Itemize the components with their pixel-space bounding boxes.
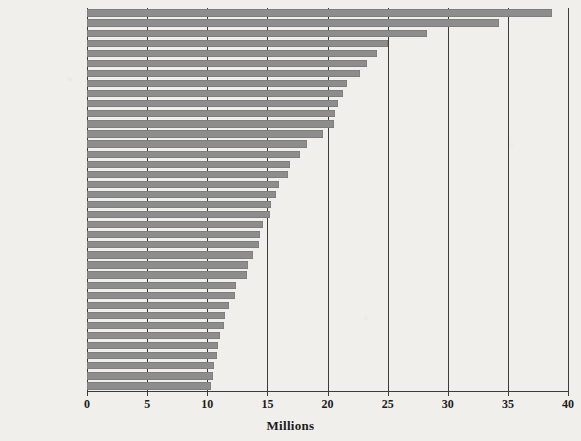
bar-row	[87, 30, 568, 37]
tick-label-15: 15	[261, 397, 273, 412]
bar-row	[87, 231, 568, 238]
tick-label-30: 30	[442, 397, 454, 412]
bar	[87, 60, 367, 67]
bar-row	[87, 251, 568, 258]
bar-row	[87, 191, 568, 198]
tick-label-0: 0	[84, 397, 90, 412]
bar	[87, 302, 229, 309]
bar-chart: 0510152025303540 Tokyo-YokohamaJakartaDe…	[0, 0, 581, 441]
bar	[87, 40, 388, 47]
tick-mark-35	[508, 391, 509, 396]
bar	[87, 332, 220, 339]
bar	[87, 130, 323, 137]
tick-label-20: 20	[322, 397, 334, 412]
tick-mark-10	[207, 391, 208, 396]
bar-row	[87, 221, 568, 228]
bar-row	[87, 282, 568, 289]
bar	[87, 50, 377, 57]
bar-row	[87, 9, 568, 16]
tick-label-40: 40	[562, 397, 574, 412]
tick-label-35: 35	[502, 397, 514, 412]
tick-mark-40	[568, 391, 569, 396]
bar-row	[87, 362, 568, 369]
tick-mark-25	[388, 391, 389, 396]
bar-row	[87, 80, 568, 87]
bar-row	[87, 171, 568, 178]
bar	[87, 201, 271, 208]
bar-row	[87, 140, 568, 147]
bar	[87, 211, 270, 218]
bar-row	[87, 332, 568, 339]
bar-row	[87, 120, 568, 127]
bar-row	[87, 50, 568, 57]
bar	[87, 140, 307, 147]
bar-row	[87, 161, 568, 168]
plot-area	[87, 8, 568, 391]
bar	[87, 171, 288, 178]
tick-label-5: 5	[144, 397, 150, 412]
bar	[87, 322, 224, 329]
bar	[87, 231, 260, 238]
bar-row	[87, 19, 568, 26]
bar	[87, 80, 347, 87]
bar	[87, 342, 218, 349]
bar-row	[87, 100, 568, 107]
x-axis-title: Millions	[0, 418, 581, 434]
bar-row	[87, 211, 568, 218]
bar	[87, 271, 247, 278]
bar-row	[87, 322, 568, 329]
bar	[87, 161, 290, 168]
bar-row	[87, 352, 568, 359]
bar-row	[87, 40, 568, 47]
bar	[87, 90, 343, 97]
bar	[87, 251, 253, 258]
bar	[87, 221, 263, 228]
bar	[87, 151, 300, 158]
gridline-40	[568, 8, 569, 391]
bar	[87, 19, 499, 26]
bar-row	[87, 110, 568, 117]
tick-label-25: 25	[382, 397, 394, 412]
bar	[87, 362, 214, 369]
tick-mark-5	[147, 391, 148, 396]
bar	[87, 30, 427, 37]
bar	[87, 70, 360, 77]
tick-mark-30	[448, 391, 449, 396]
bar	[87, 241, 259, 248]
bar	[87, 282, 236, 289]
bar-row	[87, 292, 568, 299]
bar	[87, 312, 225, 319]
bar-row	[87, 70, 568, 77]
bar-row	[87, 241, 568, 248]
bar	[87, 120, 334, 127]
bar	[87, 372, 213, 379]
bar-row	[87, 302, 568, 309]
bar-row	[87, 90, 568, 97]
tick-mark-0	[87, 391, 88, 396]
bar	[87, 352, 217, 359]
bar	[87, 191, 276, 198]
bar	[87, 261, 248, 268]
tick-mark-15	[267, 391, 268, 396]
bar-row	[87, 201, 568, 208]
bar-row	[87, 271, 568, 278]
bar-row	[87, 130, 568, 137]
bar-row	[87, 181, 568, 188]
bar-row	[87, 382, 568, 389]
bar	[87, 292, 235, 299]
bar	[87, 382, 211, 389]
bar-row	[87, 372, 568, 379]
bar-row	[87, 312, 568, 319]
bar-row	[87, 60, 568, 67]
bar	[87, 9, 552, 16]
tick-label-10: 10	[201, 397, 213, 412]
bar-row	[87, 342, 568, 349]
bar	[87, 100, 338, 107]
bar-row	[87, 151, 568, 158]
bar	[87, 181, 279, 188]
bar	[87, 110, 335, 117]
bar-row	[87, 261, 568, 268]
tick-mark-20	[328, 391, 329, 396]
